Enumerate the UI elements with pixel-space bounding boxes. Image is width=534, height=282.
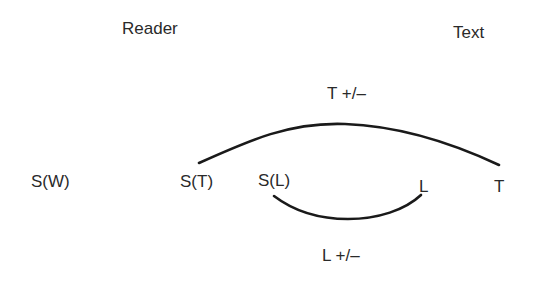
bottom-arc-l <box>274 195 421 219</box>
bottom-arc-label: L +/– <box>322 247 360 264</box>
node-s-w: S(W) <box>31 173 70 190</box>
node-s-t: S(T) <box>180 173 213 190</box>
node-t: T <box>494 178 504 195</box>
node-l: L <box>419 178 428 195</box>
arcs-layer <box>0 0 534 282</box>
top-arc-label: T +/– <box>327 85 366 102</box>
node-s-l: S(L) <box>258 172 290 189</box>
reader-header: Reader <box>122 20 178 37</box>
top-arc-t <box>199 124 499 165</box>
text-header: Text <box>453 24 484 41</box>
